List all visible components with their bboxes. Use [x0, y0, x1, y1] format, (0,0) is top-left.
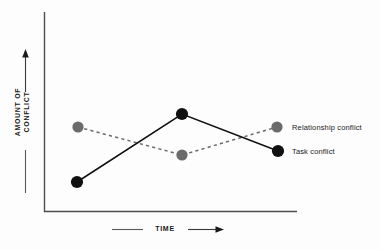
arrow-right-icon [188, 226, 224, 233]
series-task-conflict-line [77, 114, 278, 182]
conflict-over-time-chart: AMOUNT OFCONFLICT TIME Relationship conf… [0, 0, 380, 250]
data-point-relationship-1 [72, 121, 83, 132]
data-point-relationship-2 [176, 149, 187, 160]
data-point-task-3 [272, 145, 284, 157]
series-task-conflict [71, 108, 284, 188]
data-point-task-1 [71, 176, 83, 188]
x-axis-label: TIME [148, 224, 182, 233]
data-point-task-2 [176, 108, 188, 120]
legend-item-relationship-conflict: Relationship conflict [292, 123, 362, 132]
y-axis-label: AMOUNT OFCONFLICT [13, 74, 31, 150]
data-point-relationship-3 [271, 121, 282, 132]
series-relationship-conflict-line [78, 127, 277, 155]
y-axis-label-line1: AMOUNT OF [14, 88, 21, 137]
legend-item-task-conflict: Task conflict [292, 147, 335, 156]
y-axis-label-line2: CONFLICT [23, 92, 30, 133]
